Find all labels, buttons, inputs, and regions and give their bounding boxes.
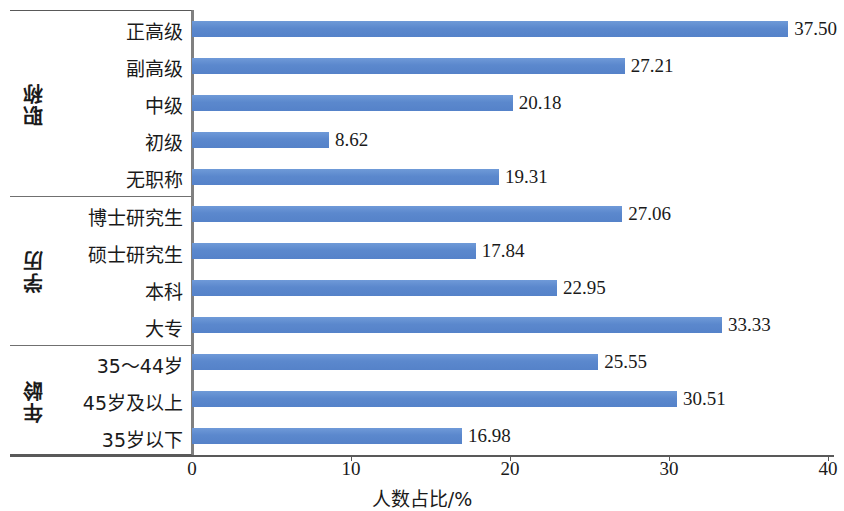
plot-area: 37.5027.2120.188.6219.3127.0617.8422.953…: [192, 10, 834, 455]
bar-value-label: 17.84: [482, 240, 525, 262]
x-axis-title: 人数占比/%: [0, 484, 844, 511]
category-panel: 职称正高级副高级中级初级无职称学历博士研究生硕士研究生本科大专年龄35～44岁4…: [10, 10, 192, 455]
x-tick-label: 0: [187, 458, 197, 480]
bar: [192, 354, 598, 370]
bar-value-label: 25.55: [604, 351, 647, 373]
bar-value-label: 8.62: [335, 129, 368, 151]
category-label: 35～44岁: [97, 351, 183, 378]
bar-value-label: 30.51: [683, 388, 726, 410]
category-list: 博士研究生硕士研究生本科大专: [56, 197, 191, 344]
bar-value-label: 37.50: [794, 18, 837, 40]
category-label: 45岁及以上: [83, 388, 183, 415]
bar-value-label: 27.06: [628, 203, 671, 225]
category-label: 硕士研究生: [88, 240, 183, 267]
bar: [192, 317, 722, 333]
category-label: 中级: [145, 90, 183, 117]
bar-value-label: 33.33: [728, 314, 771, 336]
category-group: 年龄35～44岁45岁及以上35岁以下: [10, 345, 191, 456]
category-group: 职称正高级副高级中级初级无职称: [10, 11, 191, 196]
bar: [192, 428, 462, 444]
x-tick-label: 20: [501, 458, 520, 480]
x-tick-label: 30: [660, 458, 679, 480]
x-axis-line: [10, 455, 834, 457]
category-label: 无职称: [126, 164, 183, 191]
category-label: 正高级: [126, 16, 183, 43]
bar: [192, 169, 499, 185]
category-group: 学历博士研究生硕士研究生本科大专: [10, 196, 191, 344]
group-title-2: 年龄: [10, 346, 56, 456]
category-label: 本科: [145, 277, 183, 304]
category-label: 初级: [145, 127, 183, 154]
bar: [192, 206, 622, 222]
group-title-label: 职称: [19, 82, 48, 126]
x-tick-label: 40: [819, 458, 838, 480]
category-label: 35岁以下: [102, 425, 183, 452]
bar: [192, 132, 329, 148]
y-axis-line: [192, 10, 194, 455]
category-list: 正高级副高级中级初级无职称: [56, 11, 191, 196]
bar: [192, 391, 677, 407]
group-title-1: 学历: [10, 197, 56, 344]
group-title-label: 学历: [19, 249, 48, 293]
bar: [192, 21, 788, 37]
group-title-0: 职称: [10, 11, 56, 196]
bar-value-label: 20.18: [519, 92, 562, 114]
bar-value-label: 22.95: [563, 277, 606, 299]
category-label: 博士研究生: [88, 202, 183, 229]
bar-value-label: 27.21: [631, 55, 674, 77]
category-label: 副高级: [126, 53, 183, 80]
category-label: 大专: [145, 314, 183, 341]
bar: [192, 58, 625, 74]
bar-value-label: 16.98: [468, 425, 511, 447]
bar-value-label: 19.31: [505, 166, 548, 188]
group-title-label: 年龄: [19, 379, 48, 423]
category-list: 35～44岁45岁及以上35岁以下: [56, 346, 191, 456]
bar: [192, 280, 557, 296]
bar: [192, 243, 476, 259]
x-tick-label: 10: [342, 458, 361, 480]
bar: [192, 95, 513, 111]
